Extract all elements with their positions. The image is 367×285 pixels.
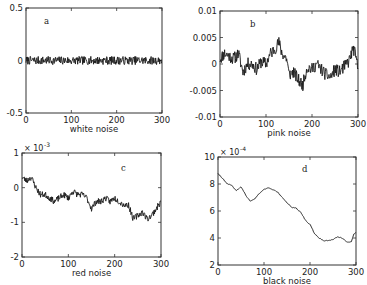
y-tick-label: -1 xyxy=(11,217,19,227)
x-tick-label: 300 xyxy=(153,259,169,269)
y-tick-label: 1 xyxy=(14,148,19,158)
xlabel-d: black noise xyxy=(263,276,311,285)
y-tick-label: 0 xyxy=(18,56,23,66)
series-line-b xyxy=(220,37,358,90)
y-tick-label: 2 xyxy=(210,260,215,270)
x-tick-label: 300 xyxy=(154,115,170,125)
series-line-a xyxy=(26,56,162,64)
panel-label-a: a xyxy=(44,16,49,26)
x-tick-label: 100 xyxy=(60,259,76,269)
panel-label-c: c xyxy=(121,163,126,173)
panel-a: a white noise 0100200300-0.500.5 xyxy=(6,3,170,134)
x-tick-label: 200 xyxy=(107,259,123,269)
y-tick-label: 6 xyxy=(210,206,215,216)
panel-b: b pink noise 0100200300-0.01-0.00500.005… xyxy=(190,6,367,138)
x-tick-label: 200 xyxy=(302,267,318,277)
y-tick-label: -0.5 xyxy=(6,108,23,118)
panel-d: d black noise 0100200300246810× 10-4 xyxy=(204,145,364,285)
y-tick-label: -0.01 xyxy=(195,112,217,122)
axis-multiplier-exponent: -3 xyxy=(44,141,50,148)
axis-multiplier: × 10 xyxy=(220,148,239,157)
panel-label-d: d xyxy=(302,164,308,174)
series-line-d xyxy=(218,173,356,242)
x-tick-label: 0 xyxy=(217,119,222,129)
y-tick-label: 0 xyxy=(212,59,217,69)
x-tick-label: 100 xyxy=(63,115,79,125)
y-tick-label: 0.005 xyxy=(193,33,217,43)
x-tick-label: 200 xyxy=(304,119,320,129)
x-tick-label: 100 xyxy=(258,119,274,129)
y-tick-label: 8 xyxy=(210,179,215,189)
xlabel-c: red noise xyxy=(72,268,111,278)
x-tick-label: 0 xyxy=(23,115,28,125)
xlabel-b: pink noise xyxy=(267,128,310,138)
panel-label-b: b xyxy=(250,19,256,29)
y-tick-label: 10 xyxy=(204,152,215,162)
series-line-c xyxy=(22,177,161,221)
y-tick-label: -2 xyxy=(11,252,19,262)
x-tick-label: 100 xyxy=(256,267,272,277)
panel-c: c red noise 0100200300-2-101× 10-3 xyxy=(11,141,170,278)
x-tick-label: 300 xyxy=(348,267,364,277)
axis-multiplier: × 10 xyxy=(24,144,43,153)
plot-area-d xyxy=(218,157,356,265)
y-tick-label: -0.005 xyxy=(190,86,217,96)
y-tick-label: 0.01 xyxy=(198,6,217,16)
x-tick-label: 0 xyxy=(215,267,220,277)
y-tick-label: 0 xyxy=(14,183,19,193)
y-tick-label: 0.5 xyxy=(9,3,23,13)
plot-area-c xyxy=(22,153,161,257)
noise-figure: a white noise 0100200300-0.500.5 b pink … xyxy=(0,0,367,285)
xlabel-a: white noise xyxy=(70,124,119,134)
x-tick-label: 300 xyxy=(350,119,366,129)
x-tick-label: 0 xyxy=(19,259,24,269)
axis-multiplier-exponent: -4 xyxy=(240,145,246,152)
y-tick-label: 4 xyxy=(210,233,215,243)
x-tick-label: 200 xyxy=(109,115,125,125)
